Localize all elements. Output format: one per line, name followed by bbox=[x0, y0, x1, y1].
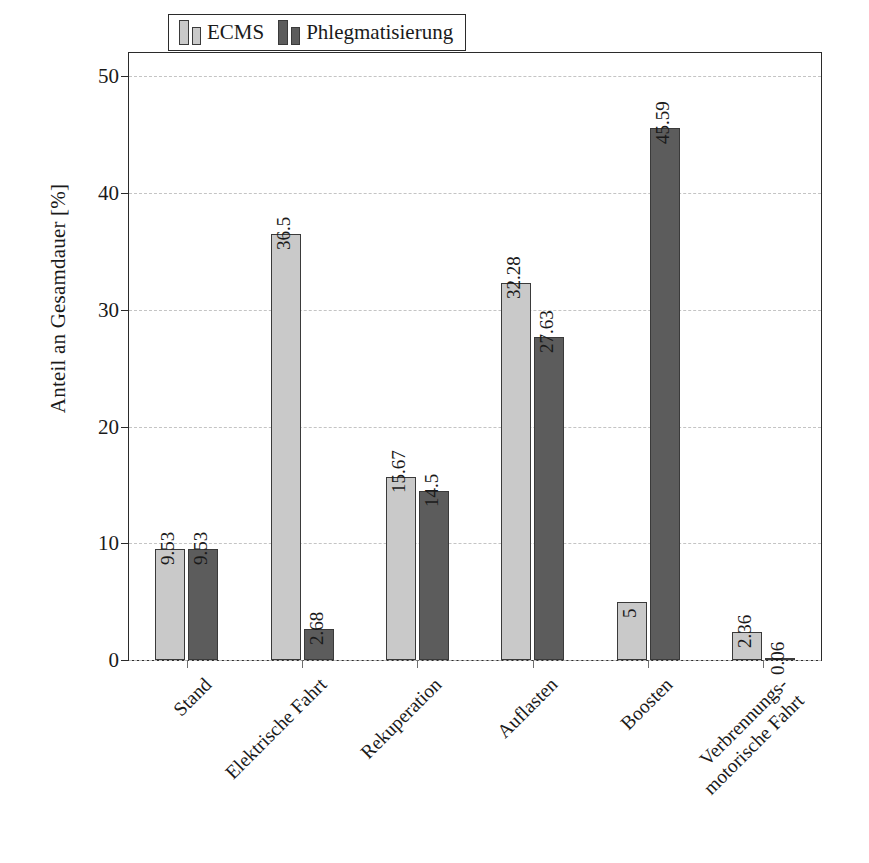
bar-ecms-0 bbox=[155, 549, 185, 660]
y-tick-label: 40 bbox=[83, 181, 119, 206]
bar-phlegmatisierung-0 bbox=[188, 549, 218, 660]
y-tick-label: 30 bbox=[83, 297, 119, 322]
bar-value-label: 2.36 bbox=[734, 615, 756, 648]
x-category-label-0: Stand bbox=[168, 673, 216, 721]
bar-value-label: 36.5 bbox=[273, 217, 295, 250]
x-category-label-4: Boosten bbox=[616, 673, 677, 734]
y-tick-label: 50 bbox=[83, 64, 119, 89]
legend-swatch-phlegmatisierung bbox=[278, 20, 300, 45]
x-category-label-2: Rekuperation bbox=[356, 673, 447, 764]
x-tick-mark bbox=[648, 660, 649, 668]
y-tick-label: 0 bbox=[83, 648, 119, 673]
y-tick-mark bbox=[121, 76, 129, 77]
y-tick-mark bbox=[121, 660, 129, 661]
bar-value-label: 45.59 bbox=[652, 101, 674, 144]
bar-phlegmatisierung-4 bbox=[650, 128, 680, 660]
legend-swatch-ecms bbox=[179, 20, 201, 45]
gridline bbox=[129, 76, 821, 77]
bar-phlegmatisierung-3 bbox=[534, 337, 564, 660]
y-tick-mark bbox=[121, 543, 129, 544]
x-tick-mark bbox=[763, 660, 764, 668]
x-tick-mark bbox=[302, 660, 303, 668]
bar-ecms-1 bbox=[271, 234, 301, 660]
bar-value-label: 0.06 bbox=[767, 642, 789, 675]
y-tick-mark bbox=[121, 427, 129, 428]
legend-entry-ecms: ECMS bbox=[179, 20, 278, 45]
chart-legend: ECMS Phlegmatisierung bbox=[168, 14, 466, 51]
gridline bbox=[129, 193, 821, 194]
y-tick-mark bbox=[121, 310, 129, 311]
gridline bbox=[129, 427, 821, 428]
bar-value-label: 15.67 bbox=[388, 450, 410, 493]
chart-figure: Anteil an Gesamdauer [%] 010203040509.53… bbox=[0, 0, 869, 863]
legend-label-phlegmatisierung: Phlegmatisierung bbox=[306, 20, 453, 45]
y-tick-label: 10 bbox=[83, 531, 119, 556]
x-tick-mark bbox=[187, 660, 188, 668]
bar-value-label: 27.63 bbox=[536, 311, 558, 354]
x-tick-mark bbox=[533, 660, 534, 668]
bar-value-label: 2.68 bbox=[306, 611, 328, 644]
x-tick-mark bbox=[417, 660, 418, 668]
gridline bbox=[129, 660, 821, 661]
bar-ecms-3 bbox=[501, 283, 531, 660]
legend-entry-phlegmatisierung: Phlegmatisierung bbox=[278, 20, 453, 45]
y-tick-label: 20 bbox=[83, 414, 119, 439]
gridline bbox=[129, 310, 821, 311]
bar-value-label: 32.28 bbox=[503, 256, 525, 299]
gridline bbox=[129, 543, 821, 544]
bar-phlegmatisierung-2 bbox=[419, 491, 449, 660]
x-category-label-1: Elektrische Fahrt bbox=[220, 673, 331, 784]
x-category-label-3: Auflasten bbox=[492, 673, 562, 743]
y-tick-mark bbox=[121, 193, 129, 194]
bar-ecms-2 bbox=[386, 477, 416, 660]
y-axis-label: Anteil an Gesamdauer [%] bbox=[46, 179, 71, 419]
bar-value-label: 14.5 bbox=[421, 473, 443, 506]
legend-label-ecms: ECMS bbox=[207, 20, 278, 45]
plot-inner: 010203040509.539.5336.52.6815.6714.532.2… bbox=[129, 53, 821, 660]
bar-value-label: 9.53 bbox=[157, 532, 179, 565]
bar-value-label: 9.53 bbox=[190, 532, 212, 565]
plot-area: 010203040509.539.5336.52.6815.6714.532.2… bbox=[128, 52, 822, 661]
x-category-label-5: Verbrennungs-motorische Fahrt bbox=[683, 673, 809, 799]
bar-value-label: 5 bbox=[619, 608, 641, 618]
